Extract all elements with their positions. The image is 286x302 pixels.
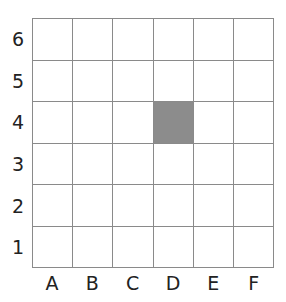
- row-label: 4: [10, 112, 26, 132]
- grid-cell-A5: [33, 61, 73, 103]
- grid-cell-F6: [234, 19, 274, 61]
- grid-cell-C3: [113, 144, 153, 186]
- grid-cell-A2: [33, 185, 73, 227]
- grid-cell-F4: [234, 102, 274, 144]
- grid-cell-B3: [73, 144, 113, 186]
- grid-cell-D5: [154, 61, 194, 103]
- grid-cell-D4: [154, 102, 194, 144]
- grid-cell-D6: [154, 19, 194, 61]
- grid-cell-E3: [194, 144, 234, 186]
- grid-cell-A3: [33, 144, 73, 186]
- column-label: A: [32, 272, 72, 294]
- column-label: F: [234, 272, 274, 294]
- grid-cell-B4: [73, 102, 113, 144]
- grid-cell-F3: [234, 144, 274, 186]
- grid-cell-E5: [194, 61, 234, 103]
- row-label: 3: [10, 154, 26, 174]
- column-label: C: [113, 272, 153, 294]
- grid-cell-F5: [234, 61, 274, 103]
- grid-cell-B6: [73, 19, 113, 61]
- grid-cell-C2: [113, 185, 153, 227]
- grid-cell-B2: [73, 185, 113, 227]
- grid-cell-C4: [113, 102, 153, 144]
- column-label: E: [193, 272, 233, 294]
- grid-cell-F1: [234, 227, 274, 269]
- row-label: 1: [10, 237, 26, 257]
- row-label: 2: [10, 196, 26, 216]
- grid-cell-A6: [33, 19, 73, 61]
- grid-cell-A4: [33, 102, 73, 144]
- column-label: D: [153, 272, 193, 294]
- coordinate-grid: [32, 18, 274, 268]
- row-label: 6: [10, 29, 26, 49]
- grid-cell-C1: [113, 227, 153, 269]
- column-label: B: [72, 272, 112, 294]
- grid-cell-A1: [33, 227, 73, 269]
- grid-cell-E1: [194, 227, 234, 269]
- grid-cell-B1: [73, 227, 113, 269]
- grid-cell-D3: [154, 144, 194, 186]
- grid-cell-E4: [194, 102, 234, 144]
- grid-cell-C6: [113, 19, 153, 61]
- grid-cell-D2: [154, 185, 194, 227]
- grid-cell-B5: [73, 61, 113, 103]
- grid-cell-E2: [194, 185, 234, 227]
- grid-cell-F2: [234, 185, 274, 227]
- grid-cell-D1: [154, 227, 194, 269]
- row-label: 5: [10, 71, 26, 91]
- grid-cell-E6: [194, 19, 234, 61]
- grid-cell-C5: [113, 61, 153, 103]
